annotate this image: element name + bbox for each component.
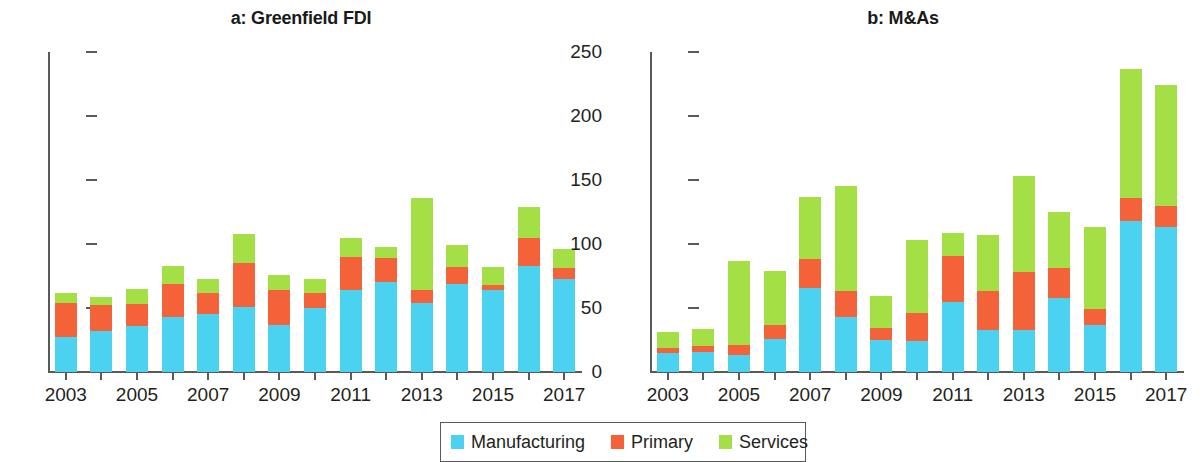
x-axis-tick-label: 2011 bbox=[321, 384, 381, 406]
y-axis-tick-label: 150 bbox=[562, 170, 602, 189]
y-axis-tick bbox=[688, 51, 699, 53]
bar-2007 bbox=[197, 279, 219, 372]
bar-2011 bbox=[942, 232, 964, 372]
bar-segment-manufacturing bbox=[482, 290, 504, 372]
panel-mergers-acquisitions: b: M&As 05010015020025020032005200720092… bbox=[602, 0, 1204, 400]
bar-segment-services bbox=[1120, 69, 1142, 198]
bar-segment-manufacturing bbox=[375, 282, 397, 372]
bar-segment-services bbox=[906, 240, 928, 313]
bar-segment-primary bbox=[553, 268, 575, 278]
x-axis-tick bbox=[1023, 372, 1025, 380]
x-axis-tick-label: 2005 bbox=[107, 384, 167, 406]
bar-segment-primary bbox=[657, 348, 679, 353]
bar-2009 bbox=[268, 275, 290, 372]
panel-b-plot-area: 0501001502002502003200520072009201120132… bbox=[650, 52, 1184, 372]
legend-label-manufacturing: Manufacturing bbox=[471, 432, 585, 453]
legend-swatch-manufacturing-icon bbox=[451, 435, 464, 449]
bar-segment-primary bbox=[268, 290, 290, 325]
bar-2013 bbox=[411, 198, 433, 372]
x-axis-tick-label: 2007 bbox=[178, 384, 238, 406]
y-axis-tick bbox=[86, 243, 97, 245]
legend-label-services: Services bbox=[739, 432, 808, 453]
bar-segment-primary bbox=[835, 291, 857, 317]
bar-segment-manufacturing bbox=[268, 325, 290, 372]
bar-segment-primary bbox=[1120, 198, 1142, 221]
x-axis-tick bbox=[207, 372, 209, 380]
bar-2008 bbox=[233, 234, 255, 372]
bar-segment-manufacturing bbox=[692, 352, 714, 372]
bar-segment-manufacturing bbox=[1048, 298, 1070, 372]
bar-segment-services bbox=[55, 293, 77, 303]
x-axis-tick bbox=[243, 372, 245, 380]
bar-segment-primary bbox=[977, 291, 999, 329]
bar-2005 bbox=[126, 289, 148, 372]
bar-segment-manufacturing bbox=[126, 326, 148, 372]
x-axis-tick bbox=[100, 372, 102, 380]
bar-segment-primary bbox=[1048, 268, 1070, 297]
bar-segment-manufacturing bbox=[55, 337, 77, 372]
x-axis-tick-label: 2017 bbox=[534, 384, 594, 406]
bar-2015 bbox=[1084, 227, 1106, 372]
x-axis-tick bbox=[492, 372, 494, 380]
bar-segment-manufacturing bbox=[728, 355, 750, 372]
x-axis-tick bbox=[350, 372, 352, 380]
bar-segment-manufacturing bbox=[764, 339, 786, 372]
bar-segment-manufacturing bbox=[1013, 330, 1035, 372]
bar-2015 bbox=[482, 267, 504, 372]
bar-2012 bbox=[375, 247, 397, 372]
x-axis-tick bbox=[774, 372, 776, 380]
legend-swatch-services-icon bbox=[719, 435, 732, 449]
bar-2003 bbox=[657, 332, 679, 372]
bar-segment-services bbox=[375, 247, 397, 259]
x-axis-tick-label: 2013 bbox=[994, 384, 1054, 406]
x-axis-tick-label: 2003 bbox=[638, 384, 698, 406]
bar-segment-primary bbox=[1013, 272, 1035, 330]
legend-item-manufacturing: Manufacturing bbox=[451, 432, 585, 453]
x-axis-tick bbox=[314, 372, 316, 380]
bar-segment-services bbox=[657, 332, 679, 347]
bar-segment-primary bbox=[340, 257, 362, 290]
bar-segment-services bbox=[126, 289, 148, 304]
y-axis-tick-label: 200 bbox=[562, 106, 602, 125]
y-axis-tick bbox=[86, 51, 97, 53]
bar-2008 bbox=[835, 186, 857, 372]
bar-segment-primary bbox=[942, 256, 964, 302]
bar-segment-primary bbox=[233, 263, 255, 307]
bar-segment-services bbox=[692, 329, 714, 347]
bar-segment-primary bbox=[728, 345, 750, 355]
x-axis-tick bbox=[1130, 372, 1132, 380]
y-axis-tick-label: 50 bbox=[562, 298, 602, 317]
bar-segment-services bbox=[1048, 212, 1070, 268]
bar-2006 bbox=[162, 266, 184, 372]
y-axis-tick bbox=[688, 243, 699, 245]
bar-segment-manufacturing bbox=[1084, 325, 1106, 372]
y-axis-tick bbox=[688, 179, 699, 181]
panel-b-title: b: M&As bbox=[602, 8, 1204, 29]
x-axis-tick bbox=[172, 372, 174, 380]
x-axis-tick bbox=[952, 372, 954, 380]
bar-segment-services bbox=[340, 238, 362, 257]
bar-segment-services bbox=[268, 275, 290, 290]
x-axis-tick bbox=[528, 372, 530, 380]
bar-segment-manufacturing bbox=[835, 317, 857, 372]
bar-segment-services bbox=[977, 235, 999, 291]
bar-segment-primary bbox=[197, 293, 219, 315]
bar-segment-manufacturing bbox=[411, 303, 433, 372]
x-axis-tick bbox=[278, 372, 280, 380]
bar-segment-manufacturing bbox=[1155, 227, 1177, 372]
bar-2004 bbox=[90, 296, 112, 372]
bar-2004 bbox=[692, 328, 714, 372]
bar-segment-primary bbox=[126, 304, 148, 326]
bar-segment-services bbox=[870, 296, 892, 328]
x-axis-tick-label: 2005 bbox=[709, 384, 769, 406]
bar-2006 bbox=[764, 271, 786, 372]
x-axis-tick bbox=[136, 372, 138, 380]
y-axis-tick bbox=[688, 307, 699, 309]
x-axis-tick bbox=[421, 372, 423, 380]
bar-segment-primary bbox=[1155, 206, 1177, 228]
x-axis-tick bbox=[738, 372, 740, 380]
bar-segment-services bbox=[90, 297, 112, 306]
bar-segment-manufacturing bbox=[1120, 221, 1142, 372]
x-axis-tick bbox=[880, 372, 882, 380]
